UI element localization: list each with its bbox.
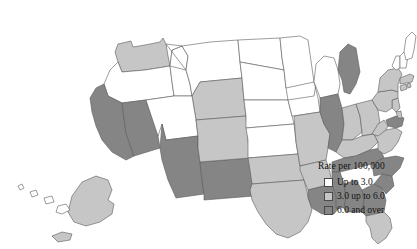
state-ks: Kansas (246, 124, 298, 158)
state-ia: Iowa (288, 82, 320, 116)
legend-swatch-mid (324, 192, 333, 201)
state-nj: New Jersey (392, 98, 400, 112)
map-legend: Rate per 100,000 Up to 3.03.0 up to 6.06… (318, 160, 417, 217)
legend-item-low: Up to 3.0 (324, 175, 417, 189)
state-ny: New York (378, 68, 402, 92)
state-me: Maine (404, 32, 416, 60)
state-wa: Washington (115, 38, 170, 72)
legend-title: Rate per 100,000 (318, 160, 417, 172)
legend-item-mid: 3.0 up to 6.0 (324, 189, 417, 203)
state-tx: Texas (250, 180, 312, 238)
state-ne: Nebraska (244, 100, 294, 128)
state-wi: Wisconsin (314, 56, 340, 98)
state-vt: Vermont (392, 56, 400, 70)
state-co: Colorado (196, 116, 250, 162)
state-wy: Wyoming (192, 78, 246, 120)
state-ct: Connecticut (400, 84, 407, 91)
legend-swatch-high (324, 206, 333, 215)
state-mi: Michigan (338, 44, 360, 94)
state-ri: Rhode Island (407, 83, 411, 88)
state-nm: New Mexico (200, 158, 254, 200)
legend-item-high: 6.0 and over (324, 203, 417, 217)
state-mn: Minnesota (280, 36, 314, 88)
legend-items: Up to 3.03.0 up to 6.06.0 and over (324, 175, 417, 217)
choropleth-map-figure: WashingtonOregonCaliforniaNevadaIdahoMon… (0, 0, 417, 249)
legend-label-low: Up to 3.0 (337, 175, 373, 189)
legend-label-high: 6.0 and over (337, 203, 384, 217)
state-ma: Massachusetts (400, 74, 414, 84)
legend-swatch-low (324, 178, 333, 187)
state-hi: Hawaii (18, 184, 70, 214)
legend-label-mid: 3.0 up to 6.0 (337, 189, 385, 203)
